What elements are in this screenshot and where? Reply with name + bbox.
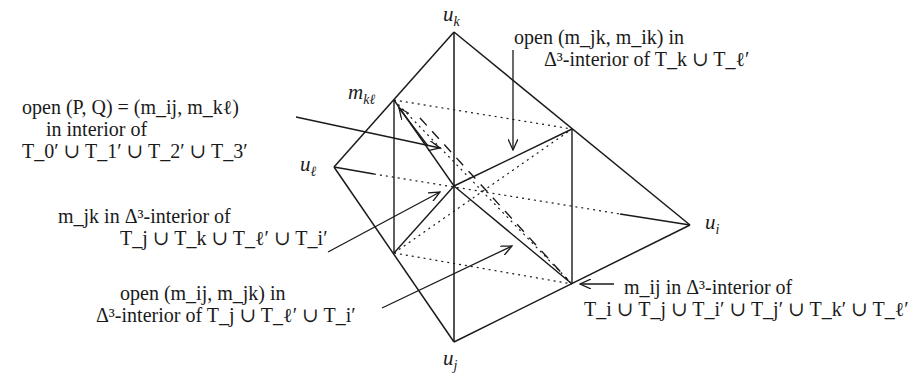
dotted-edges — [374, 100, 620, 284]
ul-sub: ℓ — [311, 164, 317, 179]
annotation-open-pq-line2: in interior of — [22, 118, 248, 140]
uj-sub: j — [454, 358, 458, 373]
annotation-open-pq: open (P, Q) = (m_ij, m_kℓ) in interior o… — [22, 96, 248, 162]
ul-base: u — [300, 152, 311, 176]
vertex-label-uj: uj — [443, 346, 457, 374]
ui-sub: i — [716, 222, 720, 237]
annotation-open-pq-line3: T_0′ ∪ T_1′ ∪ T_2′ ∪ T_3′ — [22, 140, 248, 162]
vertex-label-ul: uℓ — [300, 152, 316, 180]
mkl-sub: kℓ — [363, 92, 375, 107]
annotation-mjk-line1: m_jk in Δ³-interior of — [58, 205, 328, 227]
annotation-open-mij-mjk-line1: open (m_ij, m_jk) in — [96, 282, 356, 304]
annotation-open-mij-mjk: open (m_ij, m_jk) in Δ³-interior of T_j … — [96, 282, 356, 326]
uj-base: u — [443, 346, 454, 370]
annotation-mjk: m_jk in Δ³-interior of T_j ∪ T_k ∪ T_ℓ′ … — [58, 205, 328, 249]
uk-base: u — [443, 2, 454, 26]
annotation-mjk-line2: T_j ∪ T_k ∪ T_ℓ′ ∪ T_i′ — [58, 227, 328, 249]
annotation-mij: m_ij in Δ³-interior of T_i ∪ T_j ∪ T_i′ … — [584, 276, 909, 320]
uk-sub: k — [454, 14, 460, 29]
vertex-label-mkl: mkℓ — [348, 80, 375, 108]
annotation-mij-line2: T_i ∪ T_j ∪ T_i′ ∪ T_j′ ∪ T_k′ ∪ T_ℓ′ — [584, 298, 909, 320]
vertex-label-ui: ui — [705, 210, 719, 238]
annotation-open-pq-line1: open (P, Q) = (m_ij, m_kℓ) — [22, 96, 248, 118]
mkl-base: m — [348, 80, 363, 104]
annotation-open-mij-mjk-line2: Δ³-interior of T_j ∪ T_ℓ′ ∪ T_i′ — [96, 304, 356, 326]
annotation-arrows — [296, 50, 614, 308]
vertex-label-uk: uk — [443, 2, 460, 30]
annotation-open-mjk-mik: open (m_jk, m_ik) in Δ³-interior of T_k … — [514, 26, 749, 70]
annotation-open-mjk-mik-line2: Δ³-interior of T_k ∪ T_ℓ′ — [514, 48, 749, 70]
annotation-mij-line1: m_ij in Δ³-interior of — [584, 276, 909, 298]
annotation-open-mjk-mik-line1: open (m_jk, m_ik) in — [514, 26, 749, 48]
ui-base: u — [705, 210, 716, 234]
